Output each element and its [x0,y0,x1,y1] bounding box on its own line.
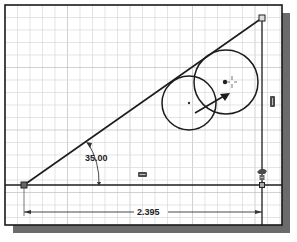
horizontal-constraint-icon[interactable] [138,172,147,177]
linear-dimension-label[interactable]: 2.395 [137,207,160,217]
bottom-right-point[interactable] [260,183,265,188]
small-circle-center-point[interactable] [188,102,190,104]
left-vertex-point[interactable] [21,182,27,188]
frame-background [5,5,282,225]
large-circle-center-point[interactable] [223,80,227,84]
sketch-canvas[interactable]: 35.00 2.395 [0,0,297,242]
angle-dimension-label[interactable]: 35.00 [85,153,108,163]
vertical-constraint-icon[interactable] [270,96,275,107]
top-right-vertex-point[interactable] [259,15,265,21]
